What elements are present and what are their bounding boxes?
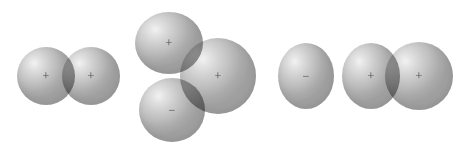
lobe-canvas: +++−+−++ xyxy=(0,0,472,149)
group-right-lobe-middle-phase-sign: + xyxy=(364,70,378,82)
group-left-lobe-right-phase-sign: + xyxy=(84,70,98,82)
group-right-lobe-left-phase-sign: − xyxy=(299,70,313,82)
group-middle-lobe-right-phase-sign: + xyxy=(211,70,225,82)
group-middle-lobe-top-left-phase-sign: + xyxy=(162,37,176,49)
group-right-lobe-right-phase-sign: + xyxy=(412,70,426,82)
orbital-phase-figure: +++−+−++ xyxy=(0,0,472,149)
group-middle-lobe-bottom-left-phase-sign: − xyxy=(165,104,179,116)
group-left-lobe-left-phase-sign: + xyxy=(39,70,53,82)
